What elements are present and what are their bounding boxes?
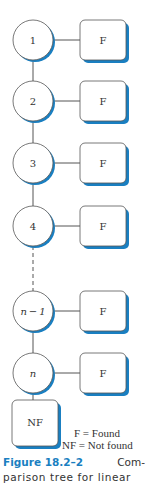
node-label: 1	[30, 35, 36, 46]
node-label: 4	[30, 221, 36, 232]
node-label: n	[30, 368, 36, 379]
caption-line1-end: Com-	[117, 455, 145, 470]
found-label: F	[100, 221, 107, 232]
figure-label: Figure 18.2–2	[3, 455, 83, 470]
found-label: F	[100, 96, 107, 107]
found-label: F	[100, 368, 107, 379]
legend-not-found: NF = Not found	[62, 439, 133, 451]
found-label: F	[100, 158, 107, 169]
node-label: 3	[30, 158, 36, 169]
caption-line2: parison tree for linear	[3, 471, 131, 483]
figure-caption: Figure 18.2–2 Com- parison tree for line…	[3, 455, 145, 483]
not-found-label: NF	[27, 417, 43, 428]
found-label: F	[100, 306, 107, 317]
found-label: F	[100, 35, 107, 46]
legend-not-found-text: NF = Not found	[62, 439, 133, 451]
node-label: n − 1	[20, 306, 45, 317]
legend-found-text: F = Found	[74, 427, 120, 439]
comparison-tree-diagram: 1F2F3F4Fn − 1FnFNF	[0, 0, 145, 483]
node-label: 2	[30, 96, 36, 107]
legend-found: F = Found	[74, 427, 120, 439]
